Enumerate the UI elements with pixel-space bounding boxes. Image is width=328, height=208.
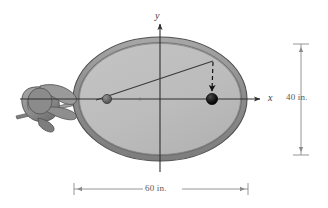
x-axis-label: x [268, 92, 272, 103]
y-axis-label: y [155, 10, 159, 21]
figure-canvas: 40 in. 60 in. x y [0, 0, 328, 208]
diagram-svg [0, 0, 328, 208]
cue-ball [102, 94, 111, 103]
dimension-label-60in: 60 in. [145, 183, 167, 193]
dimension-label-40in: 40 in. [286, 92, 308, 102]
target-ball [206, 93, 217, 104]
hand-gripping-cue [22, 85, 77, 132]
